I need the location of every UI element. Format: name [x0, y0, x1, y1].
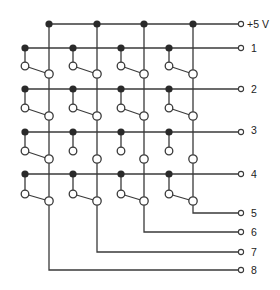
column-4-output-label: 5 [251, 207, 257, 219]
switch-contact-icon [93, 112, 101, 120]
row-1-terminal-icon [238, 45, 243, 50]
switch-contact-icon [117, 190, 125, 198]
switch-contact-icon [45, 112, 53, 120]
row-junction-node-icon [165, 128, 172, 135]
row-junction-node-icon [69, 128, 76, 135]
column-4-terminal-icon [238, 210, 243, 215]
row-junction-node-icon [69, 170, 76, 177]
row-junction-node-icon [21, 170, 28, 177]
switch-contact-icon [140, 197, 148, 205]
row-3-label: 3 [251, 124, 257, 136]
switch-contact-icon [69, 147, 77, 155]
wires [25, 24, 238, 270]
switch-contact-icon [117, 147, 125, 155]
row-junction-node-icon [165, 44, 172, 51]
supply-junction-node-icon [93, 20, 100, 27]
row-junction-node-icon [21, 85, 28, 92]
switch-contact-icon [140, 112, 148, 120]
switch-contact-icon [165, 104, 173, 112]
switch-contact-icon [140, 155, 148, 163]
switch-contact-icon [69, 104, 77, 112]
switch-contact-icon [165, 190, 173, 198]
column-3-terminal-icon [238, 229, 243, 234]
column-4-wire [193, 24, 238, 213]
switch-contact-icon [189, 197, 197, 205]
supply-label: +5 V [247, 18, 269, 30]
supply-junction-node-icon [140, 20, 147, 27]
supply-terminal-icon [238, 21, 243, 26]
row-2-terminal-icon [238, 86, 243, 91]
switch-contact-icon [189, 70, 197, 78]
column-1-terminal-icon [238, 267, 243, 272]
switch-contact-icon [69, 62, 77, 70]
switch-contact-icon [45, 197, 53, 205]
row-junction-node-icon [117, 128, 124, 135]
column-2-output-label: 7 [251, 246, 257, 258]
switch-contact-icon [69, 190, 77, 198]
column-1-output-label: 8 [251, 264, 257, 276]
supply-junction-node-icon [45, 20, 52, 27]
row-junction-node-icon [165, 85, 172, 92]
row-1-label: 1 [251, 42, 257, 54]
switch-contact-icon [189, 155, 197, 163]
row-junction-node-icon [69, 85, 76, 92]
switch-contact-icon [45, 155, 53, 163]
switch-contact-icon [21, 190, 29, 198]
switch-contact-icon [21, 147, 29, 155]
switch-contact-icon [21, 104, 29, 112]
column-2-terminal-icon [238, 249, 243, 254]
switch-contact-icon [93, 70, 101, 78]
row-junction-node-icon [69, 44, 76, 51]
row-junction-node-icon [21, 44, 28, 51]
column-2-wire [97, 24, 238, 252]
terminal-labels: +5 V 1 2 3 4 5 6 7 8 [247, 18, 269, 276]
row-junction-node-icon [165, 170, 172, 177]
terminals [238, 21, 243, 272]
switch-contact-icon [165, 62, 173, 70]
switch-contact-icon [165, 147, 173, 155]
switch-contact-icon [45, 70, 53, 78]
row-junction-node-icon [117, 44, 124, 51]
keyboard-matrix-diagram: +5 V 1 2 3 4 5 6 7 8 [0, 0, 280, 290]
row-3-terminal-icon [238, 129, 243, 134]
row-junction-node-icon [117, 170, 124, 177]
supply-junction-node-icon [189, 20, 196, 27]
switch-contact-icon [189, 112, 197, 120]
row-4-terminal-icon [238, 171, 243, 176]
switch-contact-icon [93, 155, 101, 163]
row-4-label: 4 [251, 168, 257, 180]
switch-contact-icon [140, 70, 148, 78]
switch-contact-icon [117, 104, 125, 112]
row-2-label: 2 [251, 83, 257, 95]
row-junction-node-icon [117, 85, 124, 92]
column-3-output-label: 6 [251, 226, 257, 238]
switch-contact-icon [93, 197, 101, 205]
row-junction-node-icon [21, 128, 28, 135]
switch-contact-icon [21, 62, 29, 70]
switch-contact-icon [117, 62, 125, 70]
